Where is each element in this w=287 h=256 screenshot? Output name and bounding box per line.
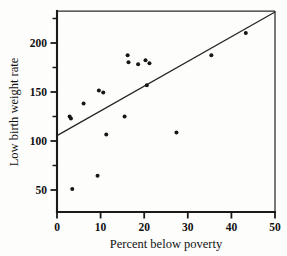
data-point [127, 60, 131, 64]
data-point [136, 62, 140, 66]
y-tick-label-100: 100 [30, 135, 48, 147]
data-point [174, 131, 178, 135]
chart-canvas: 0 10 20 30 40 50 Percent below poverty [0, 0, 287, 256]
data-point [101, 90, 105, 94]
y-axis-title: Low birth weight rate [7, 57, 21, 166]
data-point [123, 115, 127, 119]
data-point [244, 31, 248, 35]
x-axis: 0 10 20 30 40 50 Percent below poverty [54, 212, 281, 251]
x-tick-label-50: 50 [269, 221, 281, 233]
regression-line-group [57, 12, 275, 136]
y-tick-label-50: 50 [36, 184, 48, 196]
x-tick-label-40: 40 [226, 221, 238, 233]
data-point [209, 53, 213, 57]
x-tick-label-10: 10 [95, 221, 107, 233]
data-point [97, 88, 101, 92]
regression-fit-line [57, 12, 275, 136]
data-point [82, 101, 86, 105]
y-axis: 50 100 150 200 Low birth weight rate [7, 11, 57, 212]
x-axis-title: Percent below poverty [110, 237, 223, 251]
y-tick-label-200: 200 [30, 37, 48, 49]
y-tick-labels: 50 100 150 200 [30, 37, 48, 196]
data-point [126, 53, 130, 57]
data-point [70, 187, 74, 191]
data-point [145, 83, 149, 87]
data-point [69, 117, 73, 121]
data-point [104, 133, 108, 137]
scatter-plot-figure: 0 10 20 30 40 50 Percent below poverty [0, 0, 287, 256]
x-tick-labels: 0 10 20 30 40 50 [54, 221, 281, 233]
x-tick-label-30: 30 [182, 221, 194, 233]
x-tick-label-0: 0 [54, 221, 60, 233]
x-tick-label-20: 20 [138, 221, 150, 233]
data-point [147, 61, 151, 65]
data-points-group [68, 31, 248, 191]
y-tick-label-150: 150 [30, 86, 48, 98]
data-point [96, 174, 100, 178]
plot-frame [57, 11, 275, 212]
data-point [144, 58, 148, 62]
